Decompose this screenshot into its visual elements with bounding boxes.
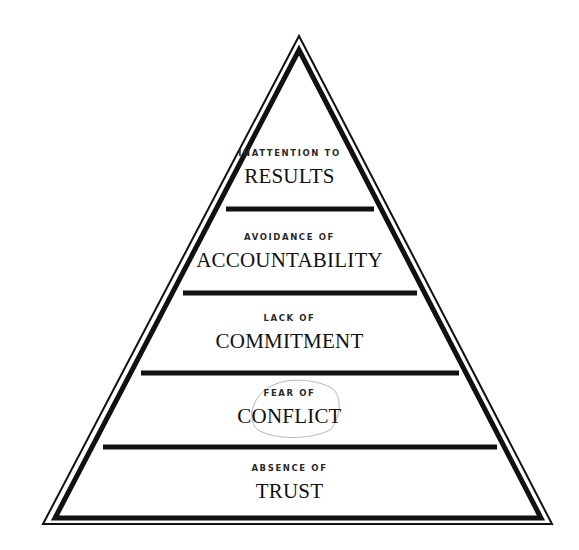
level-3-title: COMMITMENT <box>0 329 579 354</box>
level-4-title: CONFLICT <box>0 404 579 429</box>
level-2-prefix: AVOIDANCE OF <box>0 232 579 242</box>
level-2-title: ACCOUNTABILITY <box>0 248 579 273</box>
level-5-title: TRUST <box>0 479 579 504</box>
level-3-prefix: LACK OF <box>0 313 579 323</box>
pyramid-outer-border <box>43 36 552 524</box>
level-1-title: RESULTS <box>0 164 579 189</box>
level-4-prefix: FEAR OF <box>0 388 579 398</box>
level-5-prefix: ABSENCE OF <box>0 463 579 473</box>
level-1-prefix: INATTENTION TO <box>0 148 579 158</box>
